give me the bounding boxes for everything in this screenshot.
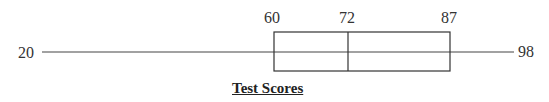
q3-label: 87 [441,10,457,26]
box-plot-chart: 20 98 60 72 87 Test Scores [0,0,549,102]
chart-title: Test Scores [232,80,303,97]
median-label: 72 [339,10,355,26]
min-label: 20 [18,45,34,61]
q1-label: 60 [264,10,280,26]
max-label: 98 [518,44,534,60]
